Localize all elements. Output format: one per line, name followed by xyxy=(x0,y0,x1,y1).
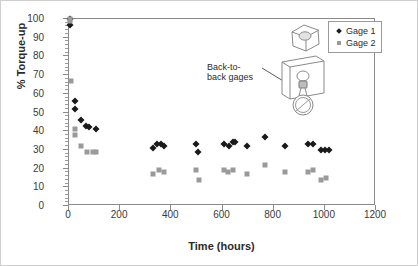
chart-figure: % Torque-up Time (hours) 010203040506070… xyxy=(0,0,418,266)
x-tick-mark xyxy=(170,205,171,210)
data-point-series-1 xyxy=(261,133,268,140)
x-tick-mark xyxy=(273,205,274,210)
data-point-series-2 xyxy=(93,149,98,154)
data-point-series-2 xyxy=(68,78,73,83)
y-tick-label: 10 xyxy=(4,181,44,192)
x-tick-label: 400 xyxy=(145,209,195,220)
y-tick-label: 80 xyxy=(4,50,44,61)
data-point-series-2 xyxy=(230,168,235,173)
x-tick-label: 200 xyxy=(94,209,144,220)
annotation-line-2: back gages xyxy=(207,72,269,82)
data-point-series-1 xyxy=(192,141,199,148)
bolted-joint-drawing-icon xyxy=(272,18,330,118)
y-tick-label: 30 xyxy=(4,143,44,154)
x-tick-mark xyxy=(222,205,223,210)
data-point-series-1 xyxy=(195,148,202,155)
x-axis-label: Time (hours) xyxy=(68,240,375,252)
y-tick-label: 70 xyxy=(4,69,44,80)
legend-label-gage-1: Gage 1 xyxy=(346,26,376,36)
data-point-series-2 xyxy=(283,170,288,175)
x-tick-label: 600 xyxy=(197,209,247,220)
data-point-series-2 xyxy=(244,172,249,177)
data-point-series-1 xyxy=(71,98,78,105)
x-tick-label: 1000 xyxy=(299,209,349,220)
legend-label-gage-2: Gage 2 xyxy=(346,38,376,48)
data-point-series-2 xyxy=(324,175,329,180)
y-tick-label: 40 xyxy=(4,125,44,136)
data-point-series-2 xyxy=(262,162,267,167)
x-tick-mark xyxy=(119,205,120,210)
data-point-series-2 xyxy=(73,132,78,137)
data-point-series-1 xyxy=(86,124,93,131)
data-point-series-2 xyxy=(72,127,77,132)
y-tick-label: 0 xyxy=(4,200,44,211)
annotation-back-to-back-gages: Back-to- back gages xyxy=(207,62,269,82)
x-tick-mark xyxy=(324,205,325,210)
y-tick-label: 60 xyxy=(4,87,44,98)
y-tick-label: 100 xyxy=(4,13,44,24)
x-tick-label: 1200 xyxy=(350,209,400,220)
data-point-series-1 xyxy=(282,143,289,150)
data-point-series-2 xyxy=(151,172,156,177)
legend-item-gage-1: Gage 1 xyxy=(333,25,376,37)
data-point-series-2 xyxy=(193,168,198,173)
data-point-series-1 xyxy=(92,126,99,133)
data-point-series-2 xyxy=(79,144,84,149)
data-point-series-2 xyxy=(161,170,166,175)
x-tick-mark xyxy=(68,205,69,210)
data-point-series-2 xyxy=(197,177,202,182)
legend: Gage 1 Gage 2 xyxy=(328,21,382,53)
data-point-series-1 xyxy=(72,105,79,112)
data-point-series-2 xyxy=(310,168,315,173)
diamond-marker-icon xyxy=(333,29,344,33)
data-point-series-1 xyxy=(310,141,317,148)
x-tick-mark xyxy=(375,205,376,210)
data-point-series-2 xyxy=(68,18,73,23)
y-tick-label: 90 xyxy=(4,31,44,42)
y-tick-label: 50 xyxy=(4,106,44,117)
x-tick-label: 0 xyxy=(43,209,93,220)
square-marker-icon xyxy=(333,41,344,45)
data-point-series-1 xyxy=(161,143,168,150)
legend-item-gage-2: Gage 2 xyxy=(333,37,376,49)
data-point-series-1 xyxy=(78,116,85,123)
y-tick-label: 20 xyxy=(4,162,44,173)
data-point-series-1 xyxy=(243,143,250,150)
x-tick-label: 800 xyxy=(248,209,298,220)
annotation-line-1: Back-to- xyxy=(207,62,269,72)
